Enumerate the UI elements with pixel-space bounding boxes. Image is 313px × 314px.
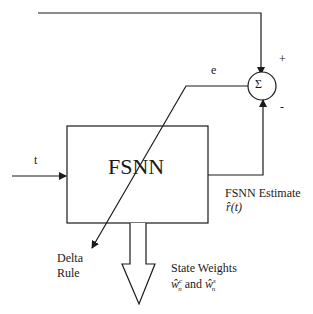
fsnn-block-label: FSNN	[108, 154, 164, 180]
reference-signal-line	[38, 13, 261, 74]
error-label: e	[211, 63, 216, 78]
estimate-feedback-line	[208, 100, 263, 175]
state-weights-symbols: ŵcn and ŵsn	[171, 277, 215, 293]
state-weights-output-arrow	[122, 223, 155, 304]
summer-symbol: Σ	[255, 77, 262, 92]
delta-rule-label-2: Rule	[57, 266, 80, 281]
delta-rule-label-1: Delta	[57, 251, 83, 266]
state-weights-label: State Weights	[171, 261, 237, 276]
plus-sign: +	[279, 52, 286, 67]
summing-junction	[248, 72, 276, 100]
minus-sign: -	[280, 100, 284, 115]
estimate-symbol: r̂(t)	[226, 200, 242, 215]
input-t-label: t	[34, 153, 37, 168]
fsnn-estimate-label: FSNN Estimate	[225, 186, 301, 201]
